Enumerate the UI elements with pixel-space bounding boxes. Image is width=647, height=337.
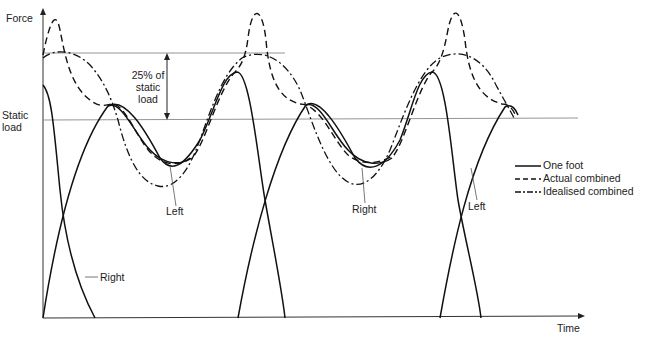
pct-label-line3: load — [128, 93, 168, 105]
left-leader-line — [170, 166, 176, 206]
left-foot-label-1: Left — [166, 205, 184, 217]
dash-dot-line-icon — [515, 189, 541, 195]
static-load-label-line2: load — [2, 121, 22, 133]
arrow-up-icon — [164, 53, 170, 60]
legend-item-actual: Actual combined — [515, 172, 633, 185]
solid-line-icon — [515, 163, 541, 169]
static-load-label-line1: Static — [2, 109, 28, 121]
legend-label: Idealised combined — [543, 185, 633, 198]
actual-combined-series — [43, 13, 516, 164]
left-foot-label-2: Left — [468, 200, 486, 212]
right-foot-label-1: Right — [352, 203, 377, 215]
pct-label-line1: 25% of — [128, 69, 168, 81]
legend-label: Actual combined — [543, 172, 621, 185]
legend-item-one-foot: One foot — [515, 159, 633, 172]
legend: One foot Actual combined Idealised combi… — [515, 159, 633, 198]
right-leader-line — [362, 168, 365, 203]
x-axis-label: Time — [557, 322, 580, 334]
arrow-down-icon — [164, 113, 170, 120]
y-axis-label: Force — [6, 12, 33, 24]
pct-label-line2: static — [128, 81, 168, 93]
dashed-line-icon — [515, 176, 541, 182]
legend-item-idealised: Idealised combined — [515, 185, 633, 198]
legend-label: One foot — [543, 159, 583, 172]
right-foot-label-bottom: Right — [100, 271, 125, 283]
y-axis-arrow-icon — [40, 8, 46, 15]
x-axis — [43, 316, 582, 318]
x-axis-arrow-icon — [578, 313, 585, 319]
